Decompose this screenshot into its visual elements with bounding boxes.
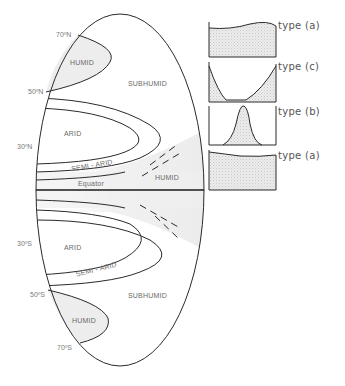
label-arid-south: ARID [64,244,82,251]
type-label-a-bottom: type (a) [278,150,320,161]
latitude-50s: 50ºS [30,291,45,298]
regime-box-type-a-bottom [209,150,276,190]
label-humid-north: HUMID [70,59,94,66]
label-semiarid-south: SEMI - ARID [75,261,117,278]
label-humid-south: HUMID [72,317,96,324]
latitude-70s: 70ºS [57,344,72,351]
latitude-30n: 30ºN [17,143,32,150]
latitude-70n: 70ºN [56,31,71,38]
latitude-30s: 30ºS [17,240,32,247]
label-equator: Equator [78,180,104,188]
latitude-50n: 50ºN [28,88,43,95]
label-subhumid-south: SUBHUMID [128,292,167,299]
south-semiarid-outer-boundary [36,220,162,286]
climate-zones-diagram: HUMID SUBHUMID ARID SEMI - ARID Equator … [0,0,345,386]
regime-box-type-b [209,106,276,145]
north-arid-boundary [36,108,139,164]
regime-box-type-a-top [209,22,276,57]
type-label-b: type (b) [278,106,320,117]
label-humid-equatorial: HUMID [155,174,179,181]
label-arid-north: ARID [64,130,82,137]
regime-box-type-c [209,62,276,102]
type-label-a-top: type (a) [278,20,320,31]
label-subhumid-north: SUBHUMID [128,80,167,87]
type-label-c: type (c) [278,61,319,72]
